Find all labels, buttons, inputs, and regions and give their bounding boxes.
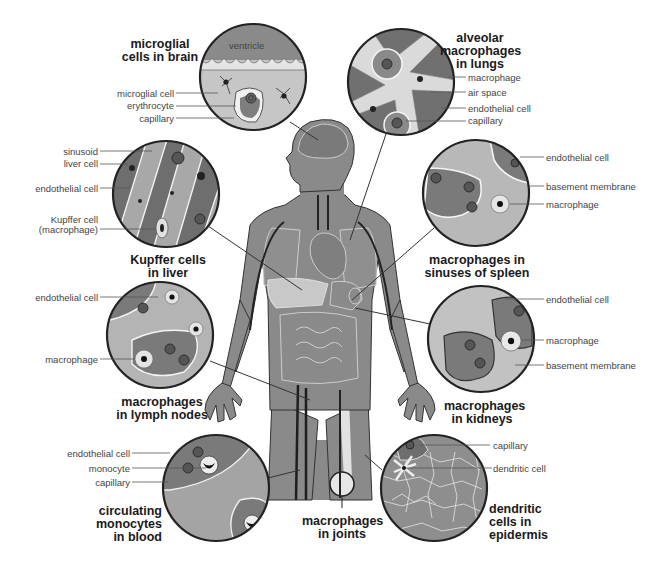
label-liver-cell: liver cell bbox=[4, 158, 98, 169]
panel-title-spleen: macrophages in sinuses of spleen bbox=[420, 254, 534, 280]
panel-title-kidneys: macrophages in kidneys bbox=[444, 400, 520, 426]
panel-title-epidermis: dendritic cells in epidermis bbox=[489, 503, 569, 542]
panel-title-joints: macrophages in joints bbox=[302, 515, 382, 541]
label-endothelial-cell-blood: endothelial cell bbox=[30, 448, 130, 459]
label-capillary-blood: capillary bbox=[30, 477, 130, 488]
label-capillary-lungs: capillary bbox=[468, 115, 503, 126]
label-macrophage-lungs: macrophage bbox=[468, 72, 521, 83]
label-endothelial-cell-liver: endothelial cell bbox=[4, 183, 98, 194]
brain-microglia-inset bbox=[195, 20, 315, 140]
label-macrophage-kidneys: macrophage bbox=[546, 335, 599, 346]
label-endothelial-cell-spleen: endothelial cell bbox=[546, 152, 609, 163]
label-erythrocyte: erythrocyte bbox=[80, 100, 174, 111]
liver-kupffer-inset bbox=[110, 130, 240, 260]
panel-title-brain: microglial cells in brain bbox=[120, 38, 200, 64]
mononuclear-phagocyte-system-diagram: microglial cells in brain alveolar macro… bbox=[0, 0, 668, 566]
label-capillary-epidermis: capillary bbox=[493, 440, 528, 451]
label-microglial-cell: microglial cell bbox=[80, 88, 174, 99]
epidermis-dendritic-inset bbox=[378, 430, 498, 552]
panel-title-liver: Kupffer cells in liver bbox=[118, 254, 218, 280]
panel-title-lungs: alveolar macrophages in lungs bbox=[440, 32, 520, 71]
panel-title-lymph: macrophages in lymph nodes bbox=[116, 396, 208, 422]
label-dendritic-cell: dendritic cell bbox=[493, 463, 546, 474]
label-air-space: air space bbox=[468, 87, 507, 98]
label-macrophage-spleen: macrophage bbox=[546, 199, 599, 210]
label-capillary-brain: capillary bbox=[80, 113, 174, 124]
label-endothelial-cell-lymph: endothelial cell bbox=[4, 292, 98, 303]
panel-title-blood: circulating monocytes in blood bbox=[90, 505, 162, 544]
label-kupffer-macrophage: (macrophage) bbox=[4, 224, 98, 235]
label-basement-membrane-spleen: basement membrane bbox=[546, 181, 636, 192]
label-macrophage-lymph: macrophage bbox=[4, 354, 98, 365]
label-basement-membrane-kidneys: basement membrane bbox=[546, 360, 636, 371]
label-endothelial-cell-lungs: endothelial cell bbox=[468, 103, 531, 114]
label-monocyte: monocyte bbox=[30, 463, 130, 474]
label-sinusoid: sinusoid bbox=[4, 146, 98, 157]
label-ventricle: ventricle bbox=[229, 40, 264, 51]
label-endothelial-cell-kidneys: endothelial cell bbox=[546, 294, 609, 305]
